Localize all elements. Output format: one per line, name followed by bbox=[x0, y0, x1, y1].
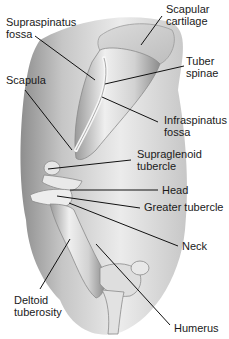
label-line: Scapula bbox=[6, 74, 46, 86]
label-supraglenoid-tubercle: Supraglenoid tubercle bbox=[137, 148, 202, 172]
label-line: Scapular bbox=[166, 3, 209, 15]
label-infraspinatus-fossa: Infraspinatus fossa bbox=[164, 114, 227, 138]
label-line: Tuber bbox=[186, 55, 218, 67]
label-deltoid-tuberosity: Deltoid tuberosity bbox=[14, 294, 62, 318]
olecranon-shape bbox=[131, 261, 149, 275]
label-scapular-cartilage: Scapular cartilage bbox=[166, 3, 209, 27]
label-line: fossa bbox=[164, 126, 227, 138]
label-humerus: Humerus bbox=[174, 322, 219, 334]
label-line: tubercle bbox=[137, 160, 202, 172]
label-line: tuberosity bbox=[14, 306, 62, 318]
label-greater-tubercle: Greater tubercle bbox=[144, 201, 223, 213]
label-line: Supraspinatus bbox=[6, 16, 76, 28]
label-line: spinae bbox=[186, 67, 218, 79]
label-line: Humerus bbox=[174, 322, 219, 334]
label-supraspinatus-fossa: Supraspinatus fossa bbox=[6, 16, 76, 40]
label-line: Supraglenoid bbox=[137, 148, 202, 160]
label-tuber-spinae: Tuber spinae bbox=[186, 55, 218, 79]
label-scapula: Scapula bbox=[6, 74, 46, 86]
label-line: cartilage bbox=[166, 15, 209, 27]
label-line: fossa bbox=[6, 28, 76, 40]
label-line: Head bbox=[162, 184, 188, 196]
shoulder-anatomy-diagram: Scapular cartilage Supraspinatus fossa T… bbox=[0, 0, 229, 339]
label-line: Infraspinatus bbox=[164, 114, 227, 126]
label-line: Greater tubercle bbox=[144, 201, 223, 213]
label-line: Deltoid bbox=[14, 294, 62, 306]
label-neck: Neck bbox=[182, 240, 207, 252]
label-line: Neck bbox=[182, 240, 207, 252]
label-head: Head bbox=[162, 184, 188, 196]
